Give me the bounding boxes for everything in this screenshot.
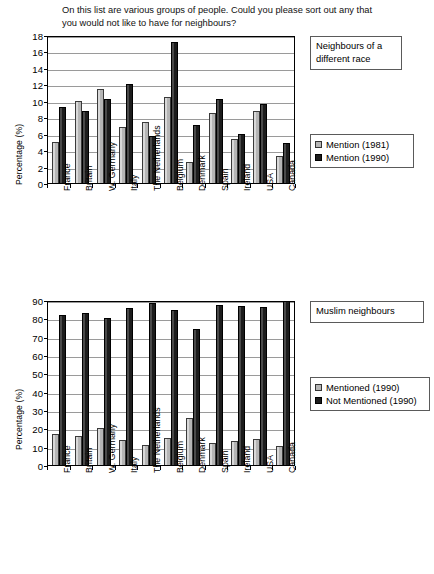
y-tick-label: 90: [32, 296, 43, 307]
bar: [186, 418, 193, 465]
legend-swatch-light-icon: [315, 384, 322, 391]
bar: [126, 84, 133, 183]
bar-group: [272, 302, 294, 465]
y-tick-label: 0: [38, 179, 43, 190]
plot-area-2: [47, 301, 295, 466]
bar-group: [227, 302, 249, 465]
x-tick-label: W. Germany: [107, 142, 117, 191]
legend-item: Mentioned (1990): [315, 381, 424, 394]
bar: [209, 443, 216, 465]
y-tick-label: 70: [32, 332, 43, 343]
chart-muslim: Percentage (%) 0102030405060708090 Franc…: [0, 295, 434, 565]
x-tick-label: Spain: [220, 450, 230, 473]
y-tick-label: 4: [38, 146, 43, 157]
y-tick-label: 10: [32, 96, 43, 107]
bar-group: [115, 37, 137, 183]
bar: [260, 307, 267, 465]
bar: [126, 308, 133, 465]
x-tick-label: Italy: [129, 457, 139, 473]
bar: [209, 113, 216, 183]
bar: [164, 97, 171, 183]
bar-group: [227, 37, 249, 183]
y-tick-label: 30: [32, 406, 43, 417]
legend-label: Mentioned (1990): [326, 381, 400, 394]
y-axis-label-1: Percentage (%): [14, 124, 24, 185]
chart-title-box-1: Neighbours of a different race: [310, 36, 402, 70]
chart-title-box-2: Muslim neighbours: [310, 301, 424, 323]
x-tick-label: Ireland: [242, 164, 252, 191]
bar: [75, 436, 82, 465]
bar: [231, 441, 238, 465]
bar: [216, 305, 223, 465]
legend-label: Not Mentioned (1990): [326, 394, 417, 407]
bar-group: [48, 302, 70, 465]
legend-swatch-dark-icon: [315, 154, 322, 161]
bar-group: [205, 302, 227, 465]
legend-2: Mentioned (1990) Not Mentioned (1990): [310, 377, 430, 411]
y-tick-label: 40: [32, 387, 43, 398]
y-tick-label: 18: [32, 31, 43, 42]
x-tick-label: Canada: [287, 442, 297, 473]
x-tick-label: Italy: [129, 175, 139, 191]
x-tick-label: Denmark: [197, 437, 207, 473]
legend-label: Mention (1981): [326, 138, 389, 151]
legend-1: Mention (1981) Mention (1990): [310, 134, 414, 168]
x-tick-label: USA: [265, 173, 275, 191]
bar-group: [115, 302, 137, 465]
bar: [253, 111, 260, 183]
bar-group: [249, 302, 271, 465]
bar: [231, 139, 238, 183]
y-tick-label: 80: [32, 314, 43, 325]
bar: [276, 156, 283, 183]
bar: [97, 428, 104, 465]
bar: [238, 306, 245, 465]
legend-item: Mention (1981): [315, 138, 408, 151]
bar: [119, 440, 126, 465]
y-tick-label: 8: [38, 113, 43, 124]
y-tick-label: 0: [38, 461, 43, 472]
bar-group: [70, 37, 92, 183]
plot-area-1: [47, 36, 295, 184]
bar: [119, 127, 126, 183]
x-tick-label: Britain: [84, 166, 94, 191]
bar: [276, 446, 283, 465]
bar: [97, 89, 104, 183]
bar: [253, 439, 260, 465]
x-tick-label: Belgium: [175, 441, 185, 473]
legend-item: Not Mentioned (1990): [315, 394, 424, 407]
y-tick-label: 6: [38, 129, 43, 140]
x-tick-label: USA: [265, 455, 275, 473]
bar: [75, 101, 82, 183]
bar: [142, 122, 149, 183]
x-tick-label: Denmark: [197, 155, 207, 191]
bar-group: [48, 37, 70, 183]
y-tick-label: 16: [32, 47, 43, 58]
bar-series-2: [48, 302, 294, 465]
y-axis-label-2: Percentage (%): [14, 389, 24, 450]
legend-item: Mention (1990): [315, 151, 408, 164]
x-tick-mark: [47, 184, 48, 188]
x-tick-label: Spain: [220, 168, 230, 191]
x-tick-label: Canada: [287, 160, 297, 191]
y-tick-label: 14: [32, 63, 43, 74]
x-tick-label: France: [62, 163, 72, 191]
y-tick-label: 10: [32, 442, 43, 453]
bar-series-1: [48, 37, 294, 183]
x-tick-label: France: [62, 445, 72, 473]
bar: [142, 445, 149, 465]
x-tick-label: Ireland: [242, 446, 252, 473]
y-tick-label: 60: [32, 351, 43, 362]
x-tick-label: The Netherlands: [152, 125, 162, 191]
bar-group: [70, 302, 92, 465]
bar-group: [205, 37, 227, 183]
x-tick-label: Britain: [84, 448, 94, 473]
bar: [82, 313, 89, 465]
legend-swatch-dark-icon: [315, 397, 322, 404]
bar: [283, 301, 290, 465]
bar: [186, 162, 193, 183]
bar: [59, 315, 66, 465]
survey-question: On this list are various groups of peopl…: [62, 4, 382, 30]
bar: [260, 104, 267, 183]
legend-swatch-light-icon: [315, 141, 322, 148]
x-tick-label: Belgium: [175, 159, 185, 191]
